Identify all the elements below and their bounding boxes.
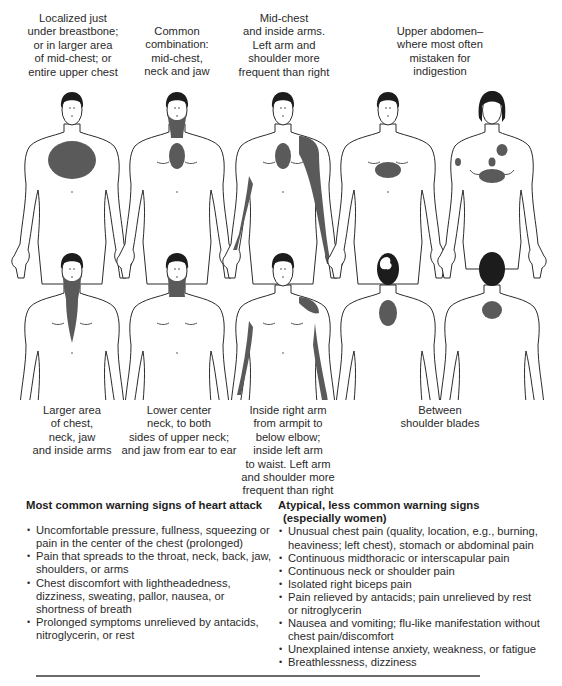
list-item: Isolated right biceps pain <box>278 578 540 591</box>
atypical-warning-title: Atypical, less common warning signs <box>278 499 540 512</box>
bottom-divider <box>36 675 480 677</box>
list-item: Prolonged symptoms unrelieved by antacid… <box>26 616 276 642</box>
list-item: Pain that spreads to the throat, neck, b… <box>26 550 276 576</box>
pain-area-mid-chest <box>169 143 185 169</box>
caption-larger-area: Larger area of chest, neck, jaw and insi… <box>22 404 122 458</box>
caption-lower-center-neck: Lower center neck, to both sides of uppe… <box>118 404 240 458</box>
pain-area-left-chest <box>497 144 508 156</box>
common-warning-title: Most common warning signs of heart attac… <box>26 499 276 512</box>
list-item: Unusual chest pain (quality, location, e… <box>278 525 540 551</box>
pain-area-upper-abdomen <box>479 169 505 183</box>
list-item: Uncomfortable pressure, fullness, squeez… <box>26 524 276 550</box>
pain-area-between-shoulder-blades <box>379 300 397 326</box>
figure-lower-neck-jaw <box>117 253 237 400</box>
figure-back-male <box>328 253 448 400</box>
figure-inside-arms <box>223 253 343 400</box>
pain-area-upper-chest <box>48 141 96 179</box>
list-item: Chest discomfort with lightheadedness, d… <box>26 577 276 616</box>
pain-area-upper-abdomen <box>375 162 401 178</box>
list-item: Nausea and vomiting; flu-like manifestat… <box>278 617 540 643</box>
atypical-warning-signs: Atypical, less common warning signs (esp… <box>278 499 540 669</box>
list-item: Continuous neck or shoulder pain <box>278 565 540 578</box>
atypical-warning-list: Unusual chest pain (quality, location, e… <box>278 525 540 669</box>
common-warning-list: Uncomfortable pressure, fullness, squeez… <box>26 524 276 642</box>
figure-chest-neck-jaw-arms <box>12 253 132 400</box>
pain-area-right-arm <box>455 158 461 166</box>
list-item: Pain relieved by antacids; pain unreliev… <box>278 591 540 617</box>
pain-area-between-shoulder-blades <box>482 301 502 319</box>
list-item: Unexplained intense anxiety, weakness, o… <box>278 643 540 656</box>
pain-location-figures <box>0 0 562 400</box>
common-warning-signs: Most common warning signs of heart attac… <box>26 499 276 642</box>
atypical-warning-subtitle: (especially women) <box>278 512 540 525</box>
list-item: Breathlessness, dizziness <box>278 656 540 669</box>
caption-between-shoulder-blades: Between shoulder blades <box>385 404 495 431</box>
figure-female-multiple <box>438 91 546 278</box>
pain-area-mid-chest <box>489 158 496 167</box>
pain-area-mid-chest <box>275 143 291 169</box>
caption-inside-right-arm: Inside right arm from armpit to below el… <box>233 404 343 498</box>
list-item: Continuous midthoracic or interscapular … <box>278 552 540 565</box>
